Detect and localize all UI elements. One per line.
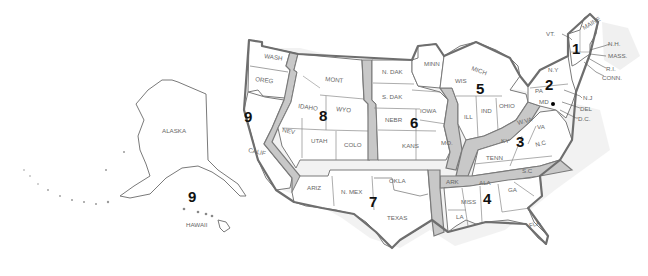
- label-okla: OKLA: [389, 177, 406, 184]
- label-hawaii: HAWAII: [186, 221, 208, 228]
- label-pa: PA: [535, 87, 544, 94]
- label-kans: KANS: [402, 142, 419, 149]
- label-texas: TEXAS: [387, 214, 407, 221]
- us-circuit-map: WASH OREG CALIF IDAHO NEV MONT WYO UTAH …: [0, 0, 648, 276]
- region-number-9-pacific: 9: [188, 188, 196, 205]
- region-9-pacific: [23, 80, 246, 232]
- label-alaska: ALASKA: [162, 127, 187, 134]
- label-utah: UTAH: [311, 137, 327, 144]
- label-nj: N.J: [583, 94, 592, 101]
- region-number-1: 1: [572, 40, 580, 57]
- label-ndak: N. DAK: [382, 68, 404, 75]
- label-del: DEL: [580, 105, 593, 112]
- label-colo: COLO: [344, 141, 362, 148]
- region-number-8: 8: [319, 107, 327, 124]
- aleutian-islands: [23, 151, 125, 205]
- region-number-7: 7: [369, 193, 377, 210]
- state-hawaii: [218, 220, 230, 232]
- label-ala: ALA: [479, 179, 492, 186]
- region-number-2: 2: [545, 76, 553, 93]
- label-vt: VT.: [546, 30, 555, 37]
- label-dc: D.C.: [578, 115, 591, 122]
- label-mass: MASS.: [608, 52, 628, 59]
- label-minn: MINN: [424, 60, 440, 67]
- region-number-6: 6: [410, 114, 418, 131]
- label-ny: N.Y: [548, 66, 558, 73]
- label-conn: CONN.: [602, 74, 622, 81]
- label-wis: WIS: [455, 77, 467, 84]
- label-iowa: IOWA: [420, 107, 437, 114]
- label-ri: R.I.: [606, 65, 616, 72]
- label-ohio: OHIO: [499, 102, 515, 109]
- label-md: MD: [539, 98, 549, 105]
- label-miss: MISS: [461, 198, 476, 205]
- label-ky: KY: [501, 137, 509, 144]
- label-mo: MO.: [441, 139, 453, 146]
- label-sc: S.C: [522, 167, 533, 174]
- label-sdak: S. DAK: [382, 93, 403, 100]
- region-number-3: 3: [516, 133, 524, 150]
- label-va: VA: [537, 123, 546, 130]
- label-la: LA: [456, 213, 464, 220]
- label-nebr: NEBR: [385, 116, 403, 123]
- region-number-5: 5: [476, 80, 484, 97]
- label-ark: ARK: [446, 178, 460, 185]
- label-tenn: TENN: [486, 154, 503, 161]
- label-ind: IND: [481, 107, 492, 114]
- region-number-4: 4: [483, 190, 492, 207]
- label-nh: N.H.: [608, 40, 621, 47]
- label-nmex: N. MEX: [341, 188, 362, 195]
- state-alaska: [120, 80, 246, 198]
- region-number-9: 9: [244, 108, 252, 125]
- label-ga: GA: [508, 186, 518, 193]
- label-ariz: ARIZ: [307, 184, 321, 191]
- label-ill: ILL: [464, 113, 473, 120]
